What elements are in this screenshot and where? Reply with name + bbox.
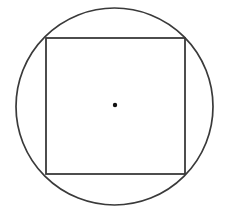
center-point-dot bbox=[113, 103, 117, 107]
geometry-figure-svg bbox=[0, 0, 230, 218]
geometry-figure-canvas bbox=[0, 0, 230, 218]
figure-background bbox=[0, 0, 230, 218]
